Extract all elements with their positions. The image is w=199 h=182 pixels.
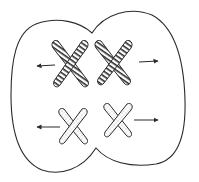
- chromosome-striped-left: [52, 40, 89, 86]
- cell-membrane: [11, 11, 185, 172]
- diagram-canvas: [0, 0, 199, 182]
- chromosome-striped-right: [95, 40, 132, 84]
- cell-division-diagram: [0, 0, 199, 182]
- arrow-top-left-icon: [37, 65, 55, 66]
- arrow-top-right-icon: [139, 61, 158, 62]
- chromosome-dotted-right: [104, 103, 132, 136]
- chromosome-dotted-left: [59, 108, 88, 143]
